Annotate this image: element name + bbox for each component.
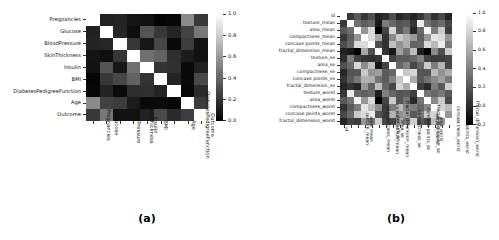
heatmap-cell xyxy=(167,97,181,109)
heatmap-cell xyxy=(347,97,354,104)
heatmap-cell xyxy=(445,34,452,41)
y-tick-label: SkinThickness xyxy=(2,50,86,62)
heatmap-cell xyxy=(445,111,452,118)
heatmap-cell xyxy=(354,90,361,97)
y-tick-label: area_se xyxy=(252,62,340,69)
heatmap-cell xyxy=(113,26,127,38)
x-tick-label: texture_mean xyxy=(347,125,354,207)
heatmap-cell xyxy=(361,20,368,27)
heatmap-cell xyxy=(417,76,424,83)
heatmap-cell xyxy=(368,34,375,41)
heatmap-cell xyxy=(375,69,382,76)
x-tick-label: SkinThickness xyxy=(127,121,141,205)
heatmap-cell xyxy=(167,73,181,85)
heatmap-cell xyxy=(347,111,354,118)
heatmap-cell xyxy=(396,41,403,48)
heatmap-cell xyxy=(445,69,452,76)
heatmap-cell xyxy=(445,90,452,97)
heatmap-cell xyxy=(194,73,208,85)
x-tick-mark-icon xyxy=(120,121,121,124)
heatmap-cell xyxy=(396,55,403,62)
heatmap-cell xyxy=(100,73,114,85)
heatmap-cell xyxy=(445,13,452,20)
heatmap-cell xyxy=(382,34,389,41)
colorbar-tick-mark-icon xyxy=(473,31,476,32)
heatmap-cell xyxy=(347,20,354,27)
heatmap-cell xyxy=(410,97,417,104)
heatmap-cell xyxy=(431,62,438,69)
x-tick-label: BMI xyxy=(154,121,168,205)
heatmap-cell xyxy=(154,73,168,85)
heatmap-cell xyxy=(154,50,168,62)
heatmap-cell xyxy=(445,27,452,34)
heatmap-cell xyxy=(445,97,452,104)
heatmap-cell xyxy=(140,14,154,26)
heatmap-cell xyxy=(167,50,181,62)
colorbar-tick-label: 0.4 xyxy=(473,67,485,72)
heatmap-cell xyxy=(431,48,438,55)
colorbar-tick-label: 0.6 xyxy=(223,54,236,59)
heatmap-cell xyxy=(347,34,354,41)
heatmap-cell xyxy=(375,111,382,118)
heatmap-cell xyxy=(403,76,410,83)
heatmap-cell xyxy=(438,13,445,20)
heatmap-cell xyxy=(113,14,127,26)
y-tick-label: compactness_se xyxy=(252,69,340,76)
heatmap-cell xyxy=(354,111,361,118)
heatmap-cell xyxy=(100,85,114,97)
heatmap-cell xyxy=(417,27,424,34)
heatmap-cell xyxy=(438,34,445,41)
heatmap-cell xyxy=(127,62,141,74)
heatmap-cell xyxy=(396,69,403,76)
heatmap-cell xyxy=(361,62,368,69)
heatmap-cell xyxy=(154,62,168,74)
x-tick-label: fractal_dimension_mean xyxy=(375,125,382,207)
heatmap-cell xyxy=(431,76,438,83)
heatmap-cell xyxy=(410,48,417,55)
heatmap-cell xyxy=(181,97,195,109)
heatmap-cell xyxy=(431,41,438,48)
heatmap-cell xyxy=(181,85,195,97)
heatmap-cell xyxy=(375,62,382,69)
colorbar-tick-label: 0.2 xyxy=(223,97,236,102)
heatmap-cell xyxy=(100,26,114,38)
heatmap-cell xyxy=(424,90,431,97)
heatmap-cell xyxy=(410,83,417,90)
heatmap-cell xyxy=(375,20,382,27)
heatmap-cell xyxy=(403,41,410,48)
heatmap-cell xyxy=(438,69,445,76)
colorbar-tick-mark-icon xyxy=(473,106,476,107)
heatmap-cell xyxy=(347,104,354,111)
x-tick-label: compactness_worst xyxy=(431,125,438,207)
y-tick-label: Outcome xyxy=(2,109,86,121)
heatmap-cell xyxy=(181,73,195,85)
heatmap-cell xyxy=(445,48,452,55)
heatmap-cell xyxy=(431,97,438,104)
panel-a-colorbar xyxy=(216,14,223,121)
heatmap-cell xyxy=(368,27,375,34)
heatmap-cell xyxy=(368,41,375,48)
heatmap-cell xyxy=(382,90,389,97)
y-tick-label: texture_mean xyxy=(252,20,340,27)
heatmap-cell xyxy=(424,62,431,69)
heatmap-cell xyxy=(86,14,100,26)
panel-b-colorbar-gradient xyxy=(466,13,473,125)
panel-a-caption: (a) xyxy=(86,212,208,225)
heatmap-cell xyxy=(354,48,361,55)
heatmap-cell xyxy=(410,69,417,76)
heatmap-cell xyxy=(127,85,141,97)
heatmap-cell xyxy=(354,27,361,34)
heatmap-cell xyxy=(382,48,389,55)
heatmap-cell xyxy=(403,20,410,27)
y-tick-label: texture_se xyxy=(252,55,340,62)
heatmap-cell xyxy=(382,27,389,34)
x-tick-label: area_se xyxy=(389,125,396,207)
x-tick-mark-icon xyxy=(174,121,175,124)
heatmap-cell xyxy=(403,69,410,76)
heatmap-cell xyxy=(368,62,375,69)
heatmap-cell xyxy=(154,26,168,38)
x-tick-mark-icon xyxy=(379,125,380,128)
heatmap-cell xyxy=(127,26,141,38)
y-tick-label: BMI xyxy=(2,73,86,85)
colorbar-tick-mark-icon xyxy=(473,68,476,69)
